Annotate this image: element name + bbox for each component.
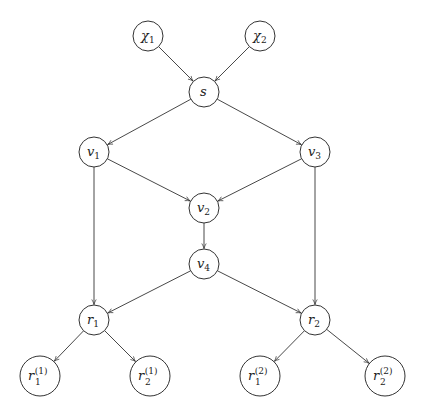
edge-s-to-v1 [108,99,191,144]
edge-s-to-v3 [217,99,301,144]
node-chi1: χ1 [133,21,163,51]
graph-canvas: χ1χ2sv1v3v2v4r1r2r(1)1r(1)2r(2)1r(2)2 [0,0,427,417]
node-r2: r2 [300,305,330,335]
edge-r2-to-r2_2 [327,329,369,363]
node-r2_1: r(1)2 [130,356,170,396]
node-r1_1: r(1)1 [20,356,60,396]
node-r2_2: r(2)2 [365,356,405,396]
node-r1: r1 [79,305,109,335]
edge-chi1-to-s [159,47,193,81]
node-v1: v1 [79,137,109,167]
node-r1_2: r(2)1 [240,356,280,396]
node-circle [130,356,170,396]
edge-r1-to-r1_1 [54,331,83,361]
node-s: s [189,77,219,107]
node-label: s [200,84,207,99]
edge-v4-to-r1 [108,271,191,313]
edge-v1-to-v2 [107,159,190,201]
node-v3: v3 [300,137,330,167]
node-v4: v4 [189,249,219,279]
edge-chi2-to-s [215,47,249,81]
node-chi2: χ2 [245,21,275,51]
node-circle [20,356,60,396]
node-layer: χ1χ2sv1v3v2v4r1r2r(1)1r(1)2r(2)1r(2)2 [20,21,405,396]
edge-r1-to-r2_1 [105,331,136,362]
node-circle [365,356,405,396]
edge-v4-to-r2 [217,271,301,313]
edge-v3-to-v2 [218,159,302,201]
node-circle [240,356,280,396]
edge-r2-to-r1_2 [274,331,304,362]
node-v2: v2 [189,193,219,223]
